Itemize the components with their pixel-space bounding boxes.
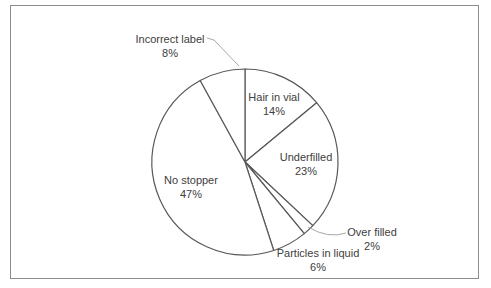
slice-label-text: Hair in vial [248,90,299,104]
leader-line-incorrect-label [207,38,239,66]
slice-pct-text: 47% [164,187,218,201]
slice-label-no-stopper: No stopper 47% [164,173,218,201]
slice-pct-text: 23% [280,164,333,178]
slice-label-particles-in-liquid: Particles in liquid 6% [277,246,360,274]
slice-pct-text: 6% [277,260,360,274]
slice-label-text: No stopper [164,173,218,187]
pie-chart: Incorrect label 8% Hair in vial 14% Unde… [0,0,491,288]
slice-pct-text: 8% [135,46,204,60]
slice-label-underfilled: Underfilled 23% [280,150,333,178]
slice-label-hair-in-vial: Hair in vial 14% [248,90,299,118]
slice-label-text: Underfilled [280,150,333,164]
slice-label-text: Particles in liquid [277,246,360,260]
slice-label-incorrect-label: Incorrect label 8% [135,32,204,60]
leader-line-over-filled [308,227,346,235]
slice-pct-text: 14% [248,104,299,118]
slice-label-text: Over filled [347,225,397,239]
pie-plot-area [0,0,491,288]
slice-label-text: Incorrect label [135,32,204,46]
